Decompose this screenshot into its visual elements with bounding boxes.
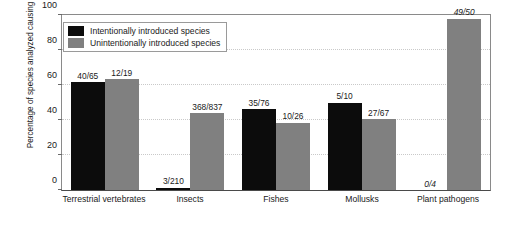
bar-slot: 27/67 bbox=[362, 15, 396, 190]
legend-item-label: Unintentionally introduced species bbox=[90, 38, 220, 48]
legend-item-unintentional: Unintentionally introduced species bbox=[68, 38, 220, 48]
bar-value-label: 368/837 bbox=[192, 102, 222, 112]
x-axis-labels: Terrestrial vertebratesInsectsFishesMoll… bbox=[61, 194, 491, 204]
bar[interactable]: 368/837 bbox=[190, 113, 224, 190]
bar-chart: Percentage of species analyzed causing h… bbox=[0, 0, 508, 226]
legend-swatch-icon bbox=[68, 26, 84, 36]
y-axis-tick-label: 100 bbox=[42, 0, 62, 10]
bar-group: 0/449/50 bbox=[404, 15, 490, 190]
bar[interactable]: 40/65 bbox=[71, 82, 105, 190]
bar-slot: 0/4 bbox=[413, 15, 447, 190]
x-axis-category-label: Plant pathogens bbox=[405, 194, 491, 204]
bar[interactable]: 27/67 bbox=[362, 119, 396, 190]
bar-value-label: 10/26 bbox=[283, 111, 304, 121]
bar[interactable]: 10/26 bbox=[276, 123, 310, 190]
bar-value-label: 27/67 bbox=[368, 108, 389, 118]
x-axis-category-label: Mollusks bbox=[319, 194, 405, 204]
y-axis-tick-label: 20 bbox=[47, 140, 62, 150]
legend-item-label: Intentionally introduced species bbox=[90, 26, 210, 36]
x-axis-category-label: Insects bbox=[147, 194, 233, 204]
bar-value-label: 12/19 bbox=[111, 68, 132, 78]
bar-group: 5/1027/67 bbox=[319, 15, 405, 190]
bar-slot: 35/76 bbox=[242, 15, 276, 190]
bar-value-label: 49/50 bbox=[454, 7, 475, 17]
chart-legend: Intentionally introduced species Uninten… bbox=[63, 22, 227, 52]
bar-value-label: 3/210 bbox=[163, 176, 184, 186]
bar[interactable]: 12/19 bbox=[105, 79, 139, 190]
bar-slot: 5/10 bbox=[328, 15, 362, 190]
y-axis-tick-label: 40 bbox=[47, 105, 62, 115]
bar[interactable]: 49/50 bbox=[447, 19, 481, 191]
bar-group: 35/7610/26 bbox=[233, 15, 319, 190]
bar[interactable]: 5/10 bbox=[328, 103, 362, 191]
y-axis-title: Percentage of species analyzed causing h… bbox=[26, 0, 35, 150]
bar-value-label: 40/65 bbox=[77, 71, 98, 81]
bar-value-label: 35/76 bbox=[249, 98, 270, 108]
legend-item-intentional: Intentionally introduced species bbox=[68, 26, 220, 36]
legend-swatch-icon bbox=[68, 38, 84, 48]
bar-value-label: 5/10 bbox=[336, 91, 352, 101]
x-axis-category-label: Terrestrial vertebrates bbox=[61, 194, 147, 204]
y-axis-tick-label: 60 bbox=[47, 70, 62, 80]
y-axis-tick-label: 80 bbox=[47, 35, 62, 45]
bar[interactable]: 35/76 bbox=[242, 109, 276, 190]
bar[interactable]: 3/210 bbox=[156, 188, 190, 190]
y-axis-tick-label: 0 bbox=[52, 175, 62, 185]
bar-value-label: 0/4 bbox=[424, 179, 436, 189]
x-axis-category-label: Fishes bbox=[233, 194, 319, 204]
bar-slot: 49/50 bbox=[447, 15, 481, 190]
bar-slot: 10/26 bbox=[276, 15, 310, 190]
